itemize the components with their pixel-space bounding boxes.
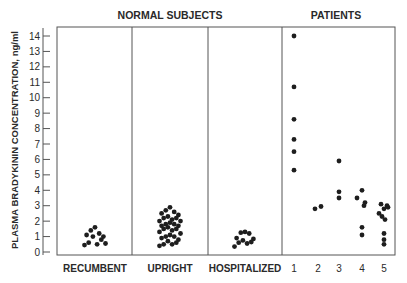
y-tick-label: 2 [34,216,40,227]
x-category-label: 1 [291,263,297,274]
data-point-hospitalized [234,236,239,241]
y-tick-label: 6 [34,154,40,165]
data-point-patient-4 [360,225,365,230]
data-point-recumbent [88,228,93,233]
y-tick-label: 5 [34,169,40,180]
data-point-patient-4 [362,203,367,208]
y-tick-label: 13 [29,46,41,57]
x-category-label: 5 [381,263,387,274]
data-point-recumbent [97,231,102,236]
data-point-upright [159,236,164,241]
data-point-patient-5 [379,202,384,207]
data-point-upright [157,230,162,235]
data-point-recumbent [82,243,87,248]
data-point-patient-5 [383,217,388,222]
data-point-patient-3 [337,189,342,194]
data-point-patient-1 [292,34,297,39]
data-point-hospitalized [232,244,237,249]
x-tick-labels: RECUMBENTUPRIGHTHOSPITALIZED12345 [63,263,387,274]
data-point-patient-1 [292,149,297,154]
data-point-hospitalized [243,230,248,235]
data-point-upright [157,219,162,224]
data-point-patient-3 [337,196,342,201]
data-point-hospitalized [236,240,241,245]
data-point-upright [168,220,173,225]
data-point-patient-1 [292,85,297,90]
y-tick-label: 11 [30,77,41,88]
data-point-upright [172,234,177,239]
data-point-recumbent [86,240,91,245]
data-point-hospitalized [249,240,254,245]
data-point-recumbent [93,225,98,230]
x-category-label: UPRIGHT [148,263,193,274]
x-category-label: 4 [359,263,365,274]
data-point-upright [159,211,164,216]
x-category-label: RECUMBENT [63,263,127,274]
data-point-upright [161,242,166,247]
x-category-label: 2 [315,263,321,274]
data-point-patient-5 [382,237,387,242]
data-point-hospitalized [245,241,250,246]
y-ticks: 01234567891011121314 [29,31,50,258]
data-point-upright [168,233,173,238]
data-point-upright [170,242,175,247]
y-tick-label: 0 [34,247,40,258]
data-point-patient-5 [382,231,387,236]
y-tick-label: 8 [34,123,40,134]
data-point-patient-1 [292,117,297,122]
x-category-label: 3 [336,263,342,274]
data-point-upright [168,205,173,210]
data-point-patient-4 [360,233,365,238]
data-point-upright [172,210,177,215]
data-point-patient-1 [292,168,297,173]
group-header-normal-subjects: NORMAL SUBJECTS [118,9,223,21]
data-point-upright [172,222,177,227]
data-point-recumbent [95,242,100,247]
data-point-hospitalized [241,238,246,243]
data-point-patient-5 [386,205,391,210]
y-tick-label: 9 [34,108,40,119]
data-point-patient-5 [382,242,387,247]
data-point-upright [166,239,171,244]
plot-frame [57,27,395,255]
data-point-upright [174,227,179,232]
data-point-upright [163,234,168,239]
data-point-patient-4 [355,196,360,201]
data-point-upright [178,231,183,236]
data-point-upright [163,208,168,213]
data-point-recumbent [91,234,96,239]
data-point-upright [157,243,162,248]
data-point-upright [161,216,166,221]
bradykinin-chart: NORMAL SUBJECTS PATIENTS PLASMA BRADYKIN… [0,0,407,283]
data-point-upright [166,214,171,219]
data-point-upright [174,240,179,245]
data-point-upright [170,228,175,233]
group-header-patients: PATIENTS [311,9,361,21]
data-point-upright [166,225,171,230]
data-point-recumbent [84,233,89,238]
data-point-recumbent [103,241,108,246]
data-point-patient-3 [337,159,342,164]
y-tick-label: 7 [34,139,40,150]
data-point-patient-4 [360,188,365,193]
y-tick-label: 4 [34,185,40,196]
data-point-upright [174,216,179,221]
y-tick-label: 10 [29,92,41,103]
x-category-label: HOSPITALIZED [209,263,282,274]
data-point-hospitalized [247,231,252,236]
data-points [82,34,390,249]
data-point-patient-2 [313,206,318,211]
y-tick-label: 12 [29,61,41,72]
y-tick-label: 1 [34,231,40,242]
data-point-patient-2 [319,204,324,209]
data-point-upright [161,227,166,232]
y-axis-label: PLASMA BRADYKININ CONCENTRATION, ng/ml [9,31,20,249]
y-tick-label: 3 [34,200,40,211]
data-point-patient-1 [292,137,297,142]
y-tick-label: 14 [29,31,41,42]
data-point-hospitalized [238,230,243,235]
data-point-upright [178,219,183,224]
data-point-recumbent [99,237,104,242]
